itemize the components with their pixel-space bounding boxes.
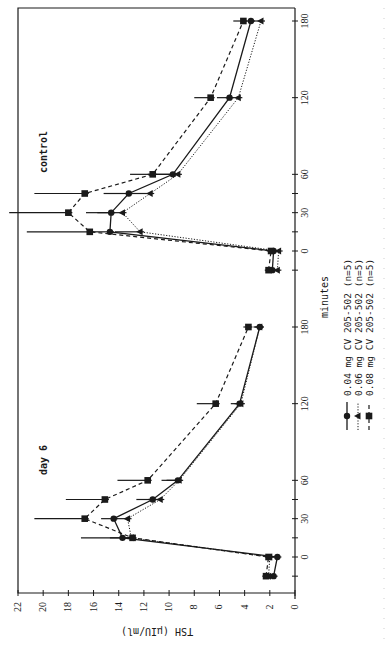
minutes-tick-label: 120 — [299, 90, 310, 105]
tsh-chart: 0246810121416182022 03060120180030601201… — [0, 0, 387, 648]
y-axis-title: TSH (µIU/ml) — [121, 626, 193, 637]
minutes-tick-label: 180 — [299, 14, 310, 29]
panel-label-day6: day 6 — [38, 445, 49, 475]
legend-label: 0.04 mg CV 205-502 (n=5) — [342, 259, 353, 396]
minutes-tick-label: 30 — [299, 514, 310, 524]
tsh-tick-label: 10 — [163, 602, 174, 612]
minutes-tick-label: 60 — [299, 475, 310, 485]
minutes-tick-label: 0 — [299, 249, 310, 254]
series-layer — [9, 18, 282, 580]
panel-label-control: control — [38, 131, 49, 173]
minutes-tick-label: 60 — [299, 169, 310, 179]
tsh-tick-label: 14 — [113, 602, 124, 612]
tsh-tick-label: 16 — [88, 602, 99, 612]
tsh-tick-label: 8 — [188, 605, 199, 610]
x-axis-title: minutes — [319, 276, 330, 318]
tsh-tick-label: 6 — [213, 605, 224, 610]
panel-control — [9, 18, 282, 274]
tsh-tick-label: 18 — [62, 602, 73, 612]
series-square — [34, 324, 272, 580]
legend-item-circle: 0.04 mg CV 205-502 (n=5) — [342, 259, 353, 430]
panel-day6 — [34, 324, 281, 580]
tsh-tick-label: 12 — [138, 602, 149, 612]
tsh-tick-label: 22 — [12, 602, 23, 612]
legend-item-triangle: 0.06 mg CV 205-502 (n=5) — [353, 259, 364, 430]
series-circle — [101, 324, 281, 580]
minutes-tick-label: 0 — [299, 555, 310, 560]
tsh-tick-label: 20 — [37, 602, 48, 612]
legend-item-square: 0.08 mg CV 205-502 (n=5) — [364, 259, 375, 430]
minutes-tick-label: 120 — [299, 396, 310, 411]
plot-frame — [18, 8, 295, 599]
minutes-tick-label: 180 — [299, 320, 310, 335]
series-triangle — [97, 18, 282, 274]
legend-label: 0.08 mg CV 205-502 (n=5) — [364, 259, 375, 396]
legend: 0.04 mg CV 205-502 (n=5)0.06 mg CV 205-5… — [342, 259, 375, 430]
tsh-tick-label: 0 — [289, 605, 300, 610]
tsh-tick-label: 2 — [264, 605, 275, 610]
minutes-tick-label: 30 — [299, 208, 310, 218]
legend-label: 0.06 mg CV 205-502 (n=5) — [353, 259, 364, 396]
tsh-tick-label: 4 — [239, 605, 250, 610]
series-triangle — [81, 324, 274, 580]
